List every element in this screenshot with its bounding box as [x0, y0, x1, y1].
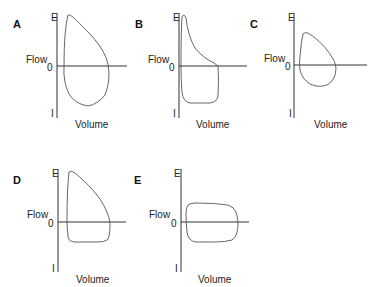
zero-label: 0	[47, 62, 53, 73]
x-axis-label: Volume	[198, 274, 232, 285]
zero-label: 0	[285, 61, 291, 72]
panel-e: E E Flow 0 I Volume	[134, 168, 249, 285]
x-axis-label: Volume	[314, 119, 348, 130]
y-bottom-label: I	[51, 108, 54, 119]
panel-c: C E Flow 0 I Volume	[250, 12, 367, 130]
zero-label: 0	[171, 218, 177, 229]
zero-label: 0	[48, 218, 54, 229]
y-bottom-label: I	[289, 108, 292, 119]
flow-volume-loop-a	[64, 15, 109, 106]
y-axis-label: Flow	[148, 54, 170, 65]
flow-volume-loop-b	[181, 15, 219, 103]
panel-label-a: A	[13, 18, 21, 30]
flow-volume-loop-d	[67, 171, 110, 242]
y-axis-label: Flow	[27, 209, 49, 220]
flow-volume-figure: A E Flow 0 I Volume B E Flow 0 I Volume …	[0, 0, 380, 287]
y-top-label: E	[174, 168, 181, 179]
y-bottom-label: I	[175, 263, 178, 274]
panel-b: B E Flow 0 I Volume	[135, 12, 247, 130]
panel-label-e: E	[134, 174, 141, 186]
y-bottom-label: I	[52, 263, 55, 274]
y-axis-label: Flow	[264, 53, 286, 64]
y-axis-label: Flow	[26, 54, 48, 65]
y-bottom-label: I	[173, 108, 176, 119]
x-axis-label: Volume	[75, 119, 109, 130]
x-axis-label: Volume	[196, 119, 230, 130]
flow-volume-loop-c	[300, 33, 337, 87]
x-axis-label: Volume	[76, 274, 110, 285]
panel-label-d: D	[13, 174, 21, 186]
zero-label: 0	[169, 62, 175, 73]
panel-label-b: B	[135, 18, 143, 30]
panel-a: A E Flow 0 I Volume	[13, 12, 127, 130]
panel-label-c: C	[250, 18, 258, 30]
panel-d: D E Flow 0 I Volume	[13, 168, 126, 285]
y-axis-label: Flow	[149, 209, 171, 220]
